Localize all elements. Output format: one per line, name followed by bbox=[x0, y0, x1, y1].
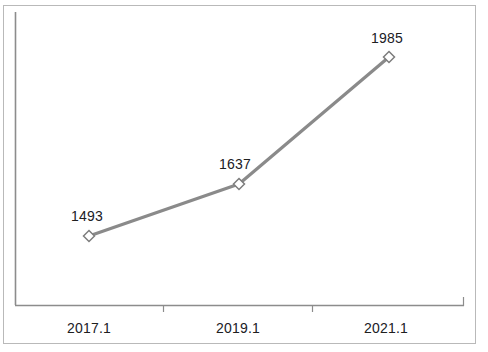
line-chart-canvas bbox=[0, 0, 488, 352]
data-label-point-2: 1637 bbox=[219, 157, 251, 171]
x-axis-label-2021: 2021.1 bbox=[334, 321, 438, 335]
chart-screenshot: 1493 1637 1985 2017.1 2019.1 2021.1 bbox=[0, 0, 488, 352]
x-axis-label-2019: 2019.1 bbox=[186, 321, 290, 335]
data-point-marker-1 bbox=[84, 231, 95, 242]
data-line-series-1 bbox=[89, 57, 389, 236]
plot-area: 1493 1637 1985 2017.1 2019.1 2021.1 bbox=[0, 0, 488, 352]
x-axis-label-2017: 2017.1 bbox=[37, 321, 141, 335]
data-label-point-1: 1493 bbox=[71, 209, 103, 223]
data-label-point-3: 1985 bbox=[371, 31, 403, 45]
